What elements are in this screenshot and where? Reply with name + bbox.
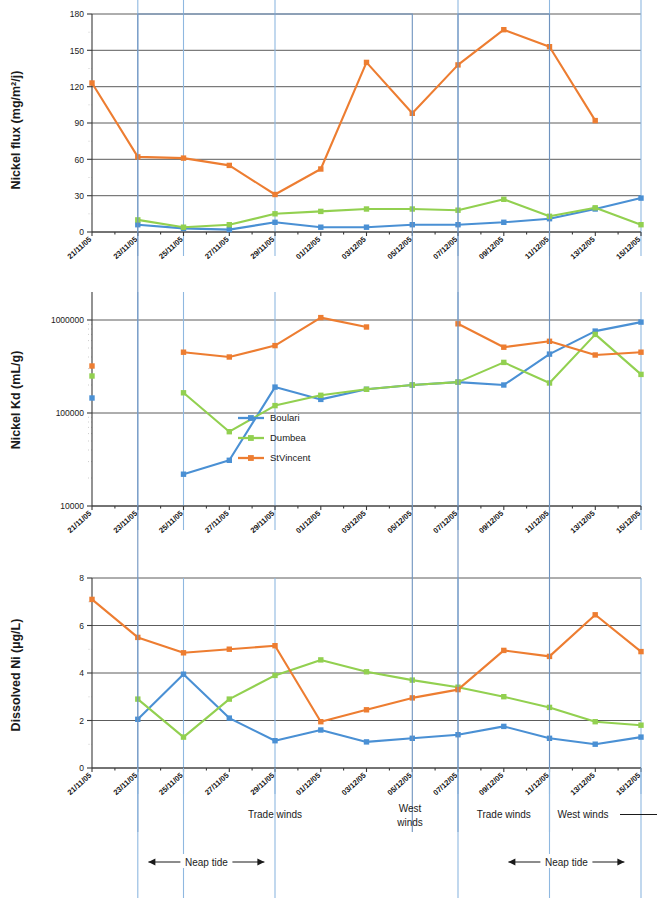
data-point-marker (364, 60, 369, 65)
x-tick-label: 21/11/05 (66, 770, 94, 797)
legend: BoulariDumbeaStVincent (238, 412, 311, 463)
data-point-marker (227, 458, 232, 463)
data-point-marker (593, 612, 598, 617)
x-tick-label: 25/11/05 (157, 770, 185, 797)
x-tick-label: 13/12/05 (569, 234, 598, 261)
data-point-marker (593, 742, 598, 747)
x-tick-label: 15/12/05 (614, 234, 643, 261)
legend-swatch-marker (248, 455, 254, 461)
neap-tide-1-arrow-left (148, 858, 155, 865)
y-tick-label: 60 (75, 155, 85, 165)
data-point-marker (181, 672, 186, 677)
data-point-marker (272, 403, 277, 408)
y-tick-label: 120 (70, 82, 84, 92)
label-west-winds-2: West winds (558, 809, 609, 820)
data-point-marker (227, 429, 232, 434)
data-point-marker (501, 197, 506, 202)
data-point-marker (227, 227, 232, 232)
x-tick-label: 29/11/05 (249, 770, 277, 797)
y-tick-label: 90 (75, 118, 85, 128)
data-point-marker (638, 195, 643, 200)
series-boulari (89, 319, 643, 477)
data-point-marker (638, 734, 643, 739)
data-point-marker (272, 192, 277, 197)
data-point-marker (593, 352, 598, 357)
data-point-marker (272, 643, 277, 648)
x-tick-label: 23/11/05 (111, 234, 139, 261)
neap-tide-2-arrow-left (508, 858, 515, 865)
label-west-winds-1: West (399, 803, 422, 814)
data-point-marker (89, 597, 94, 602)
data-point-marker (364, 739, 369, 744)
y-tick-label: 150 (70, 46, 84, 56)
series-line (138, 199, 641, 227)
data-point-marker (181, 225, 186, 230)
data-point-marker (638, 723, 643, 728)
x-tick-label: 25/11/05 (157, 234, 185, 261)
data-point-marker (227, 696, 232, 701)
x-tick-label: 25/11/05 (157, 508, 185, 535)
x-tick-label: 09/12/05 (477, 508, 506, 535)
panel-dissolved-ni: 0246821/11/0523/11/0525/11/0527/11/0529/… (9, 573, 644, 797)
figure-container: 030609012015018021/11/0523/11/0525/11/05… (0, 0, 657, 898)
data-point-marker (181, 734, 186, 739)
x-tick-label: 11/12/05 (523, 770, 551, 797)
data-point-marker (638, 319, 643, 324)
data-point-marker (318, 393, 323, 398)
data-point-marker (501, 345, 506, 350)
x-tick-label: 03/12/05 (340, 234, 369, 261)
data-point-marker (638, 372, 643, 377)
y-tick-label: 8 (79, 573, 84, 583)
y-axis-title: Nickel flux (mg/m²/j) (9, 71, 23, 190)
data-point-marker (318, 225, 323, 230)
panel-nickel-flux: 030609012015018021/11/0523/11/0525/11/05… (9, 0, 644, 261)
data-point-marker (272, 211, 277, 216)
data-point-marker (593, 205, 598, 210)
data-point-marker (364, 206, 369, 211)
series-line (92, 599, 641, 721)
legend-swatch-marker (248, 415, 254, 421)
data-point-marker (501, 360, 506, 365)
x-tick-label: 15/12/05 (614, 508, 643, 535)
data-point-marker (318, 315, 323, 320)
panel-nickel-kd: 10000100000100000021/11/0523/11/0525/11/… (9, 292, 644, 535)
x-tick-label: 27/11/05 (203, 770, 231, 797)
x-tick-label: 21/11/05 (66, 508, 94, 535)
data-point-marker (227, 647, 232, 652)
data-point-marker (318, 727, 323, 732)
x-tick-label: 15/12/05 (614, 770, 643, 797)
data-point-marker (181, 350, 186, 355)
y-axis-title: Dissolved Ni (µg/L) (9, 619, 23, 732)
x-tick-label: 05/12/05 (386, 508, 415, 535)
data-point-marker (638, 649, 643, 654)
y-tick-label: 10000 (60, 501, 84, 511)
x-tick-label: 11/12/05 (523, 508, 551, 535)
series-stvincent (89, 597, 643, 725)
data-point-marker (227, 715, 232, 720)
data-point-marker (364, 707, 369, 712)
series-stvincent (89, 315, 643, 369)
y-tick-label: 6 (79, 621, 84, 631)
annotation-band: Trade windsWestwindsTrade windsWest wind… (138, 14, 657, 898)
x-tick-label: 29/11/05 (249, 508, 277, 535)
y-tick-label: 180 (70, 9, 84, 19)
data-point-marker (318, 719, 323, 724)
y-tick-label: 0 (79, 227, 84, 237)
x-tick-label: 07/12/05 (431, 770, 460, 797)
y-tick-label: 1000000 (51, 315, 84, 325)
x-tick-label: 09/12/05 (477, 770, 506, 797)
x-tick-label: 13/12/05 (569, 508, 598, 535)
label-trade-winds-1: Trade winds (248, 809, 302, 820)
neap-tide-2-arrow-right (617, 858, 624, 865)
neap-tide-2-label: Neap tide (545, 857, 588, 868)
data-point-marker (227, 354, 232, 359)
x-tick-label: 05/12/05 (386, 770, 415, 797)
y-axis-title: Nickel Kd (mL/g) (9, 351, 23, 450)
data-point-marker (593, 118, 598, 123)
x-tick-label: 11/12/05 (523, 234, 551, 261)
data-point-marker (364, 669, 369, 674)
x-tick-label: 23/11/05 (111, 508, 139, 535)
series-line (92, 30, 595, 195)
data-point-marker (364, 225, 369, 230)
y-tick-label: 0 (79, 763, 84, 773)
